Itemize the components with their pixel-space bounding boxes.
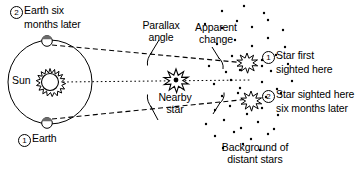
badge-star-2: 2 xyxy=(262,90,275,103)
label-star-sighted-six-months-line1: Star sighted here xyxy=(276,88,354,100)
sun-to-star-axis-line xyxy=(63,80,250,82)
label-earth-six-months-later: 2Earth six months later xyxy=(10,5,81,31)
badge-star-1: 1 xyxy=(262,51,275,64)
badge-earth-1: 1 xyxy=(18,134,31,147)
label-sun: Sun xyxy=(12,75,30,87)
label-star-sighted-six-months-line2: six months later xyxy=(276,103,354,115)
label-background-distant-stars-line2: distant stars xyxy=(196,154,314,166)
label-earth-six-months-later-line1: Earth six xyxy=(24,4,64,16)
label-parallax-angle-line2: angle xyxy=(130,32,192,44)
star-sighted-2-icon xyxy=(241,91,262,111)
earth-marker-2 xyxy=(42,35,53,46)
label-nearby-star-line1: Nearby xyxy=(146,92,204,104)
label-star-first-sighted-line2: sighted here xyxy=(276,64,333,76)
label-earth: 1Earth xyxy=(18,133,57,147)
label-background-distant-stars-line1: Background of xyxy=(196,142,314,154)
label-star-first-sighted: 1Star first sighted here xyxy=(262,50,333,76)
nearby-star-icon xyxy=(164,69,188,93)
earth-marker-1 xyxy=(42,117,53,128)
badge-earth-2: 2 xyxy=(10,6,23,19)
sun-icon xyxy=(36,69,65,97)
label-star-sighted-six-months: 2Star sighted here six months later xyxy=(262,89,354,115)
label-nearby-star-line2: star xyxy=(146,104,204,116)
label-apparent-change-line2: change xyxy=(186,34,246,46)
label-parallax-angle: Parallax angle xyxy=(130,20,192,43)
label-earth-six-months-later-line2: months later xyxy=(24,19,81,31)
label-earth-line1: Earth xyxy=(32,132,57,144)
label-apparent-change-line1: Apparent xyxy=(186,22,246,34)
label-apparent-change: Apparent change xyxy=(186,22,246,45)
label-nearby-star: Nearby star xyxy=(146,92,204,115)
label-star-first-sighted-line1: Star first xyxy=(276,49,314,61)
apparent-change-arc-upper xyxy=(218,57,223,69)
parallax-diagram: 2Earth six months later Sun 1Earth Paral… xyxy=(0,0,362,171)
apparent-change-leader-lower xyxy=(213,102,221,114)
label-background-distant-stars: Background of distant stars xyxy=(196,142,314,165)
apparent-change-leader xyxy=(212,47,220,59)
label-parallax-angle-line1: Parallax xyxy=(130,20,192,32)
